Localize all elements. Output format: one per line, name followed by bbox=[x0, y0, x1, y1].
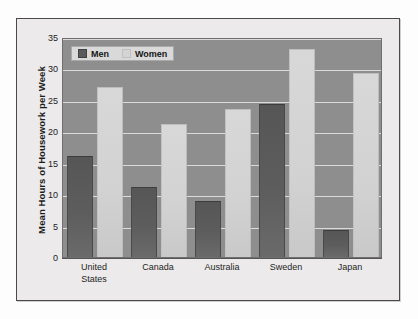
x-axis-tick-label: Canada bbox=[126, 262, 190, 274]
x-axis-tick-label-line: United bbox=[62, 262, 126, 274]
legend-entry-men: Men bbox=[78, 49, 109, 59]
y-axis-tick-label: 35 bbox=[36, 33, 58, 43]
y-axis-tick-label: 10 bbox=[36, 190, 58, 200]
x-axis-tick-label-line: Sweden bbox=[254, 262, 318, 274]
bar-men-japan bbox=[323, 230, 349, 257]
bar-women-sweden bbox=[289, 49, 315, 257]
x-axis-tick-label: Japan bbox=[318, 262, 382, 274]
y-axis-tick-label: 5 bbox=[36, 222, 58, 232]
x-axis-tick-label-line: Japan bbox=[318, 262, 382, 274]
legend-label: Men bbox=[91, 49, 109, 59]
gridline bbox=[63, 39, 381, 40]
x-axis-tick-labels: UnitedStatesCanadaAustraliaSwedenJapan bbox=[62, 262, 382, 298]
bar-men-sweden bbox=[259, 104, 285, 257]
bar-women-canada bbox=[161, 124, 187, 257]
x-axis-tick-label: UnitedStates bbox=[62, 262, 126, 285]
legend-swatch-women-icon bbox=[122, 49, 131, 58]
bar-women-australia bbox=[225, 109, 251, 257]
x-axis-tick-label-line: Canada bbox=[126, 262, 190, 274]
x-axis-line bbox=[62, 258, 382, 259]
plot-area: MenWomen bbox=[62, 38, 382, 258]
y-axis-tick-label: 15 bbox=[36, 159, 58, 169]
x-axis-tick-label-line: States bbox=[62, 274, 126, 286]
bar-women-united-states bbox=[97, 87, 123, 257]
x-axis-tick-label: Sweden bbox=[254, 262, 318, 274]
bar-men-united-states bbox=[67, 156, 93, 257]
x-axis-tick-label: Australia bbox=[190, 262, 254, 274]
chart-legend: MenWomen bbox=[71, 46, 174, 61]
bar-men-australia bbox=[195, 201, 221, 257]
x-axis-tick-label-line: Australia bbox=[190, 262, 254, 274]
legend-entry-women: Women bbox=[122, 49, 167, 59]
y-axis-tick-label: 20 bbox=[36, 127, 58, 137]
y-axis-tick-labels: 35302520151050 bbox=[34, 38, 58, 258]
y-axis-tick-label: 0 bbox=[36, 253, 58, 263]
legend-swatch-men-icon bbox=[78, 49, 87, 58]
gridline bbox=[63, 70, 381, 71]
bar-women-japan bbox=[353, 73, 379, 257]
chart-figure: Mean Hours of Housework per Week 3530252… bbox=[0, 0, 418, 319]
bar-men-canada bbox=[131, 187, 157, 257]
y-axis-tick-label: 25 bbox=[36, 96, 58, 106]
y-axis-tick-label: 30 bbox=[36, 64, 58, 74]
legend-label: Women bbox=[135, 49, 167, 59]
